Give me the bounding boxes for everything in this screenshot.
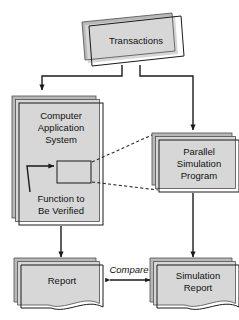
psp-label-line2: Simulation	[177, 158, 221, 169]
flowchart-svg: Transactions Computer Application System	[0, 0, 239, 320]
simreport-label-line2: Report	[184, 282, 213, 293]
cas-label-line3: System	[45, 134, 77, 145]
transactions-label: Transactions	[109, 35, 163, 46]
simreport-label-line1: Simulation	[176, 270, 220, 281]
cas-label-line1: Computer	[40, 110, 82, 121]
node-report[interactable]: Report	[14, 258, 103, 309]
dashed-line-upper	[92, 135, 152, 162]
dashed-line-lower	[92, 182, 158, 190]
dashed-correspondence-lines	[92, 135, 158, 190]
function-caption: Function to Be Verified	[38, 193, 85, 216]
node-simulation-report[interactable]: Simulation Report	[150, 258, 239, 309]
psp-label-line1: Parallel	[183, 146, 215, 157]
cas-label-line2: Application	[38, 122, 84, 133]
diagram-canvas: Transactions Computer Application System	[0, 0, 239, 320]
node-transactions[interactable]: Transactions	[82, 13, 184, 66]
function-caption-line2: Be Verified	[38, 205, 84, 216]
function-caption-line1: Function to	[38, 193, 85, 204]
node-parallel-simulation-program[interactable]: Parallel Simulation Program	[152, 133, 239, 192]
psp-label-line3: Program	[181, 170, 218, 181]
compare-label: Compare	[109, 264, 148, 275]
report-label: Report	[48, 275, 77, 286]
connector-compare: Compare	[109, 264, 150, 280]
